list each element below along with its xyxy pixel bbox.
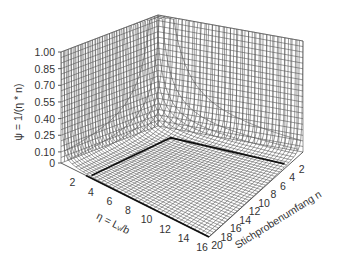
z-tick-label: 0.85 bbox=[35, 63, 56, 75]
surface-plot: 00.100.250.400.550.700.851.00ψ = 1/(η * … bbox=[0, 0, 337, 269]
x-tick-label: 2 bbox=[70, 176, 76, 188]
z-tick-label: 0.55 bbox=[35, 96, 56, 108]
y-tick-label: 4 bbox=[289, 171, 295, 183]
z-tick-label: 0.25 bbox=[35, 129, 56, 141]
y-tick-label: 6 bbox=[280, 180, 286, 192]
z-tick-label: 0 bbox=[49, 157, 55, 169]
x-tick-label: 8 bbox=[125, 204, 131, 216]
z-tick-label: 0.10 bbox=[35, 146, 56, 158]
z-tick-label: 0.40 bbox=[35, 113, 56, 125]
x-tick-label: 6 bbox=[107, 195, 113, 207]
x-tick-label: 4 bbox=[88, 186, 94, 198]
y-tick-label: 2 bbox=[299, 163, 305, 175]
x-tick-label: 14 bbox=[178, 232, 190, 244]
y-tick-label: 8 bbox=[270, 188, 276, 200]
y-tick-label: 20 bbox=[211, 239, 223, 251]
x-tick-label: 16 bbox=[196, 241, 208, 253]
x-tick-label: 12 bbox=[159, 223, 171, 235]
z-axis-label: ψ = 1/(η * n) bbox=[12, 84, 24, 141]
z-tick-label: 0.70 bbox=[35, 79, 56, 91]
x-tick-label: 10 bbox=[141, 213, 153, 225]
z-tick-label: 1.00 bbox=[35, 46, 56, 58]
